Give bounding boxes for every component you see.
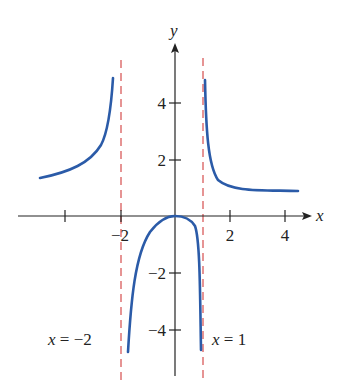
x-tick-label-minus-2: −2 <box>111 226 129 245</box>
y-tick-label-minus-4: −4 <box>148 321 167 340</box>
function-graph: −2 2 4 4 2 −2 −4 x y x = −2 x = 1 <box>0 0 343 386</box>
y-axis-label: y <box>168 21 178 40</box>
curve-right-branch <box>205 80 298 191</box>
y-tick-label-2: 2 <box>158 151 167 170</box>
curve-left-branch <box>40 78 113 178</box>
asymptote-label-right: x = 1 <box>211 330 246 349</box>
x-tick-label-2: 2 <box>226 226 235 245</box>
y-tick-label-minus-2: −2 <box>148 264 166 283</box>
asymptote-label-left: x = −2 <box>47 330 92 349</box>
y-tick-label-4: 4 <box>158 94 167 113</box>
x-tick-label-4: 4 <box>281 226 290 245</box>
x-axis-label: x <box>315 206 324 225</box>
